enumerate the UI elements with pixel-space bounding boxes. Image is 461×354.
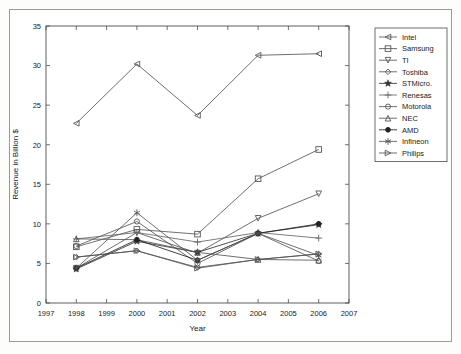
- data-series-layer: [73, 51, 322, 272]
- data-point-marker: [315, 235, 322, 242]
- y-tick-label: 25: [33, 101, 41, 110]
- x-tick-label: 2006: [310, 309, 327, 318]
- data-point-marker: [316, 221, 321, 226]
- data-point-marker: [135, 237, 140, 242]
- y-tick-label: 0: [37, 299, 41, 308]
- x-tick-label: 1997: [38, 309, 55, 318]
- x-tick-label: 2002: [189, 309, 206, 318]
- x-tick-label: 1998: [68, 309, 85, 318]
- x-tick-label: 2004: [250, 309, 267, 318]
- chart-figure: 1997199819992000200120022003200420052006…: [0, 0, 461, 354]
- y-tick-label: 5: [37, 259, 41, 268]
- filled-circle-marker: [316, 221, 321, 226]
- x-axis-ticks: 1997199819992000200120022003200420052006…: [38, 26, 358, 318]
- legend-item-label: Motorola: [402, 102, 432, 111]
- legend-item-label: AMD: [402, 126, 419, 135]
- data-point-marker: [194, 239, 201, 246]
- legend-item-label: NEC: [402, 114, 418, 123]
- series-intel: [74, 51, 322, 126]
- data-point-marker: [386, 127, 391, 132]
- x-axis-title: Year: [189, 324, 206, 333]
- x-tick-label: 2000: [129, 309, 146, 318]
- y-tick-label: 30: [33, 61, 41, 70]
- series-line: [76, 149, 318, 246]
- filled-circle-marker: [135, 237, 140, 242]
- legend-item-label: STMicro.: [402, 79, 432, 88]
- chart-legend: IntelSamsungTIToshibaSTMicro.RenesasMoto…: [375, 28, 447, 162]
- y-tick-label: 35: [33, 22, 41, 31]
- x-tick-label: 1999: [98, 309, 115, 318]
- legend-item-label: Renesas: [402, 91, 432, 100]
- filled-circle-marker: [386, 127, 391, 132]
- x-tick-label: 2001: [159, 309, 176, 318]
- legend-item-label: Infineon: [402, 137, 429, 146]
- y-tick-label: 20: [33, 141, 41, 150]
- y-tick-label: 15: [33, 180, 41, 189]
- line-chart-canvas: 1997199819992000200120022003200420052006…: [0, 0, 461, 354]
- legend-item-label: Toshiba: [402, 68, 429, 77]
- legend-item-label: Philips: [402, 149, 424, 158]
- legend-item-label: TI: [402, 56, 409, 65]
- legend-item-label: Samsung: [402, 44, 434, 53]
- x-tick-label: 2005: [280, 309, 297, 318]
- x-tick-label: 2007: [341, 309, 358, 318]
- y-tick-label: 10: [33, 220, 41, 229]
- x-tick-label: 2003: [219, 309, 236, 318]
- y-axis-title: Revenue in Billion $: [11, 129, 20, 200]
- legend-item-label: Intel: [402, 33, 417, 42]
- series-samsung: [74, 147, 322, 250]
- series-line: [76, 54, 318, 124]
